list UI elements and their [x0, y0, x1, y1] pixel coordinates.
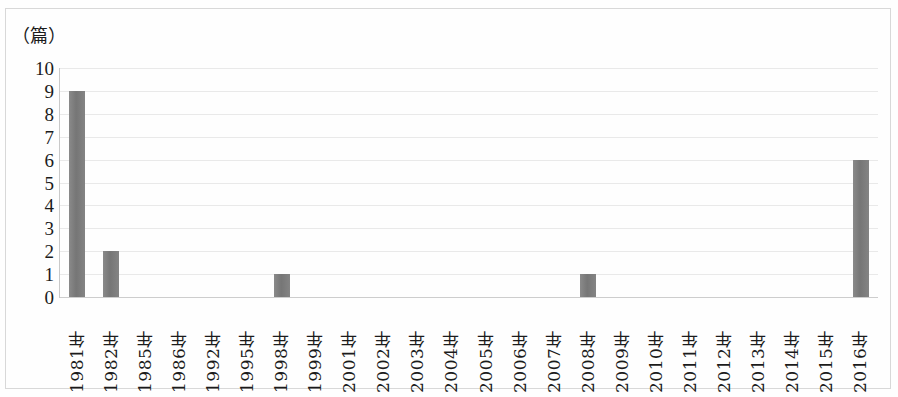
x-tick-label: 2012年 [716, 301, 733, 393]
x-tick-label: 2014年 [784, 301, 801, 393]
x-tick-label: 2008年 [580, 301, 597, 393]
bar-slot [674, 68, 708, 297]
x-tick-label: 2003年 [409, 301, 426, 393]
x-tick-label: 2001年 [341, 301, 358, 393]
x-tick-label: 2004年 [443, 301, 460, 393]
x-label-slot: 2008年 [571, 301, 605, 393]
x-label-slot: 1986年 [162, 301, 196, 393]
bar-slot [196, 68, 230, 297]
x-label-slot: 1982年 [94, 301, 128, 393]
bar-slot [162, 68, 196, 297]
x-label-slot: 2004年 [435, 301, 469, 393]
x-tick-label: 2002年 [375, 301, 392, 393]
x-tick-label: 2015年 [818, 301, 835, 393]
bar-slot [333, 68, 367, 297]
bar-slot [299, 68, 333, 297]
x-tick-label: 2009年 [614, 301, 631, 393]
bar-slot [708, 68, 742, 297]
x-label-slot: 2007年 [537, 301, 571, 393]
x-label-slot: 2012年 [708, 301, 742, 393]
y-tick-label: 9 [10, 81, 54, 100]
x-label-slot: 1985年 [128, 301, 162, 393]
chart-figure: （篇） 012345678910 1981年1982年1985年1986年199… [0, 0, 898, 397]
x-label-slot: 2015年 [810, 301, 844, 393]
x-tick-label: 2011年 [682, 301, 699, 393]
bar-slot [776, 68, 810, 297]
bar [274, 274, 290, 297]
bar [580, 274, 596, 297]
x-label-slot: 2016年 [844, 301, 878, 393]
x-label-slot: 2013年 [742, 301, 776, 393]
y-axis-tick-labels: 012345678910 [0, 0, 54, 397]
y-tick-label: 10 [10, 59, 54, 78]
x-tick-label: 1999年 [307, 301, 324, 393]
y-tick-label: 4 [10, 196, 54, 215]
gridline [60, 297, 878, 298]
plot-area [60, 68, 878, 297]
x-label-slot: 2009年 [605, 301, 639, 393]
bar-slot [537, 68, 571, 297]
bar-slot [639, 68, 673, 297]
x-label-slot: 1995年 [230, 301, 264, 393]
bar-slot [94, 68, 128, 297]
x-tick-label: 1992年 [205, 301, 222, 393]
x-label-slot: 2014年 [776, 301, 810, 393]
x-label-slot: 2006年 [503, 301, 537, 393]
bar-slot [742, 68, 776, 297]
x-tick-label: 1986年 [171, 301, 188, 393]
bar [103, 251, 119, 297]
bar-slot [469, 68, 503, 297]
x-label-slot: 2002年 [367, 301, 401, 393]
y-tick-label: 6 [10, 150, 54, 169]
bar-slot [605, 68, 639, 297]
bar-slot [810, 68, 844, 297]
y-tick-label: 3 [10, 219, 54, 238]
x-label-slot: 1981年 [60, 301, 94, 393]
y-tick-label: 1 [10, 265, 54, 284]
y-tick-label: 7 [10, 127, 54, 146]
x-tick-label: 2010年 [648, 301, 665, 393]
x-label-slot: 2011年 [674, 301, 708, 393]
bar-slot [571, 68, 605, 297]
x-label-slot: 2005年 [469, 301, 503, 393]
bar-slot [401, 68, 435, 297]
bar-slot [503, 68, 537, 297]
x-tick-label: 1981年 [69, 301, 86, 393]
y-tick-label: 5 [10, 173, 54, 192]
x-axis-tick-labels: 1981年1982年1985年1986年1992年1995年1998年1999年… [60, 301, 878, 393]
bar-slot [128, 68, 162, 297]
bar-slot [435, 68, 469, 297]
bar [69, 91, 85, 297]
x-tick-label: 1982年 [103, 301, 120, 393]
bar-slot [844, 68, 878, 297]
bar-slot [265, 68, 299, 297]
x-tick-label: 1998年 [273, 301, 290, 393]
y-tick-label: 0 [10, 288, 54, 307]
x-label-slot: 2010年 [639, 301, 673, 393]
x-label-slot: 2001年 [333, 301, 367, 393]
x-label-slot: 1999年 [299, 301, 333, 393]
x-tick-label: 2013年 [750, 301, 767, 393]
x-tick-label: 2016年 [852, 301, 869, 393]
y-tick-label: 8 [10, 104, 54, 123]
x-tick-label: 1995年 [239, 301, 256, 393]
y-tick-label: 2 [10, 242, 54, 261]
x-label-slot: 2003年 [401, 301, 435, 393]
bar-slot [367, 68, 401, 297]
x-label-slot: 1992年 [196, 301, 230, 393]
x-label-slot: 1998年 [265, 301, 299, 393]
x-tick-label: 2006年 [512, 301, 529, 393]
x-tick-label: 1985年 [137, 301, 154, 393]
bar [853, 160, 869, 297]
bar-slot [230, 68, 264, 297]
x-tick-label: 2007年 [546, 301, 563, 393]
bar-slot [60, 68, 94, 297]
x-tick-label: 2005年 [478, 301, 495, 393]
